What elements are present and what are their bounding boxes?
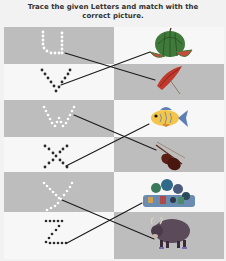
violin-icon[interactable] bbox=[156, 142, 185, 173]
fish-icon[interactable] bbox=[151, 107, 188, 127]
match-line-z-toys[interactable] bbox=[67, 203, 142, 243]
yak-icon[interactable] bbox=[151, 218, 190, 249]
worksheet-graphics bbox=[0, 0, 226, 261]
letter-y-dotted[interactable] bbox=[43, 182, 74, 212]
match-line-y-yak[interactable] bbox=[62, 200, 154, 239]
match-line-w-violin[interactable] bbox=[74, 115, 156, 150]
xylophone-toys-icon[interactable] bbox=[143, 179, 195, 207]
letter-x-dotted[interactable] bbox=[44, 145, 69, 169]
match-lines bbox=[61, 52, 156, 243]
match-line-x-fish[interactable] bbox=[66, 124, 149, 166]
umbrella-icon[interactable] bbox=[157, 66, 182, 94]
match-line-v-watermelon[interactable] bbox=[61, 52, 150, 85]
letter-w-dotted[interactable] bbox=[43, 106, 76, 128]
letter-v-dotted[interactable] bbox=[41, 69, 72, 93]
watermelon-icon[interactable] bbox=[150, 28, 192, 57]
letter-u-dotted[interactable] bbox=[42, 31, 64, 55]
letter-z-dotted[interactable] bbox=[45, 220, 68, 245]
